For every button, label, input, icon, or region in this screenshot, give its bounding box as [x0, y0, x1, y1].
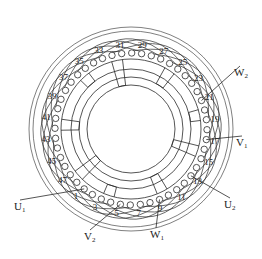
slot-45	[57, 154, 63, 160]
slot-label-3: 3	[93, 202, 98, 212]
terminal-label-v1: V1	[236, 136, 248, 150]
coil-arc	[83, 185, 186, 220]
slot-39	[58, 96, 64, 102]
slot-label-37: 37	[59, 72, 69, 82]
coil-arc	[160, 110, 216, 202]
slot-27	[158, 56, 164, 62]
slot-label-23: 23	[194, 73, 204, 83]
slot-12	[181, 180, 187, 186]
slot-label-47: 47	[58, 175, 68, 185]
slot-label-31: 31	[116, 40, 125, 50]
slot-48	[74, 179, 80, 185]
slot-30	[129, 50, 135, 56]
slot-label-43: 43	[42, 134, 52, 144]
ring-connector	[61, 119, 79, 130]
slot-label-17: 17	[210, 136, 220, 146]
slot-14	[193, 164, 199, 170]
slot-42	[52, 125, 58, 131]
slot-label-39: 39	[48, 91, 58, 101]
coil-arc	[41, 81, 76, 184]
slot-label-11: 11	[177, 192, 186, 202]
slot-4	[108, 199, 114, 205]
coil-envelope	[33, 31, 229, 227]
coil-arcs	[29, 27, 233, 231]
slot-38	[62, 87, 68, 93]
terminal-label-w2: W2	[234, 66, 248, 80]
coil-envelope	[29, 27, 233, 231]
slot-24	[182, 73, 188, 79]
slot-label-29: 29	[138, 40, 148, 50]
coil-arc	[46, 57, 102, 149]
slot-19	[203, 117, 209, 123]
terminal-label-u1: U1	[14, 200, 26, 214]
slot-40	[55, 106, 61, 112]
ring-connector	[104, 184, 117, 197]
slot-29	[138, 51, 144, 57]
slot-31	[119, 50, 125, 56]
connection-ring	[71, 69, 191, 189]
terminal-label-w1: W1	[150, 228, 164, 242]
slot-label-7: 7	[136, 208, 141, 218]
ring-connector	[112, 60, 126, 87]
inner-rings	[61, 59, 201, 199]
slot-34	[90, 60, 96, 66]
coil-arc	[76, 39, 179, 74]
slot-44	[54, 145, 60, 151]
slot-label-1: 1	[74, 191, 79, 201]
slot-32	[109, 52, 115, 58]
slot-3	[98, 196, 104, 202]
slot-46	[62, 163, 68, 169]
coil-arc	[112, 44, 204, 100]
slot-33	[99, 55, 105, 61]
slot-label-15: 15	[204, 157, 214, 167]
slot-label-45: 45	[47, 156, 57, 166]
slot-43	[52, 135, 58, 141]
slot-36	[75, 72, 81, 78]
slot-label-33: 33	[94, 45, 104, 55]
slot-10	[165, 192, 171, 198]
slot-circles	[52, 50, 210, 208]
winding-diagram: 1357911131517192123252729313335373941434…	[0, 0, 262, 259]
slot-28	[148, 53, 154, 59]
slot-label-5: 5	[114, 208, 119, 218]
slot-47	[67, 172, 73, 178]
slot-label-35: 35	[75, 56, 85, 66]
coil-arc	[59, 158, 151, 214]
slot-label-27: 27	[159, 46, 169, 56]
slot-22	[194, 88, 200, 94]
slot-16	[201, 146, 207, 152]
slot-label-19: 19	[210, 114, 220, 124]
slot-6	[127, 202, 133, 208]
terminal-label-v2: V2	[84, 230, 96, 244]
terminal-label-u2: U2	[224, 198, 236, 212]
connection-ring	[79, 77, 183, 181]
slot-8	[147, 199, 153, 205]
slot-37	[68, 79, 74, 85]
slot-7	[137, 201, 143, 207]
connection-ring	[61, 59, 201, 199]
slot-18	[204, 127, 210, 133]
slot-26	[166, 60, 172, 66]
ring-connector	[81, 73, 95, 87]
slot-41	[53, 115, 59, 121]
slot-2	[89, 191, 95, 197]
slot-label-25: 25	[178, 57, 188, 67]
slot-20	[201, 107, 207, 113]
slot-label-41: 41	[42, 112, 51, 122]
